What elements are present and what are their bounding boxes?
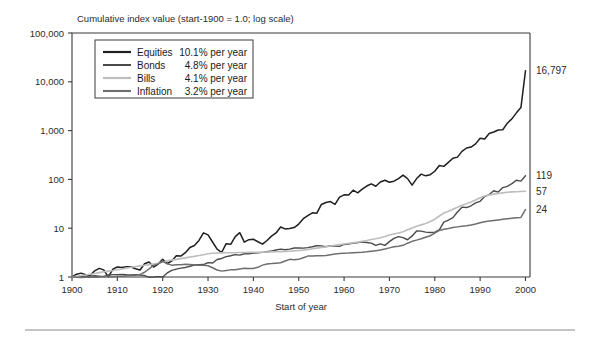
- y-tick-label: 10,000: [35, 76, 64, 87]
- y-tick-label: 10: [53, 223, 64, 234]
- series-line-inflation: [72, 210, 525, 278]
- y-tick-label: 1: [59, 272, 64, 283]
- chart-canvas: Cumulative index value (start-1900 = 1.0…: [0, 0, 599, 344]
- x-axis-title-group: Start of year: [275, 301, 327, 312]
- x-tick-label: 1930: [197, 284, 218, 295]
- x-tick-label: 1970: [379, 284, 400, 295]
- x-tick-label: 1960: [334, 284, 355, 295]
- legend-name-bills: Bills: [137, 73, 155, 84]
- end-label-bills: 57: [536, 186, 548, 197]
- x-tick-label: 1950: [288, 284, 309, 295]
- y-tick-label: 100,000: [30, 28, 64, 39]
- x-tick-label: 2000: [515, 284, 536, 295]
- chart-title-group: Cumulative index value (start-1900 = 1.0…: [77, 13, 294, 24]
- series-line-equities: [72, 71, 525, 277]
- legend-name-inflation: Inflation: [137, 86, 172, 97]
- end-value-labels: 16,7971195724: [536, 65, 567, 215]
- x-tick-label: 1910: [107, 284, 128, 295]
- x-axis: 1900191019201930194019501960197019801990…: [61, 277, 536, 295]
- legend-name-bonds: Bonds: [137, 60, 165, 71]
- x-tick-label: 1980: [424, 284, 445, 295]
- x-tick-label: 1990: [470, 284, 491, 295]
- chart-title: Cumulative index value (start-1900 = 1.0…: [77, 13, 294, 24]
- x-axis-title: Start of year: [275, 301, 327, 312]
- end-label-inflation: 24: [536, 204, 548, 215]
- x-tick-label: 1920: [152, 284, 173, 295]
- x-tick-label: 1940: [243, 284, 264, 295]
- chart-legend: Equities10.1% per yearBonds4.8% per year…: [95, 40, 253, 98]
- end-label-equities: 16,797: [536, 65, 567, 76]
- x-tick-label: 1900: [61, 284, 82, 295]
- y-tick-label: 100: [48, 174, 64, 185]
- legend-rate-inflation: 3.2% per year: [185, 86, 248, 97]
- series-line-bills: [72, 191, 525, 277]
- y-axis: 1101001,00010,000100,000: [30, 28, 72, 283]
- chart-figure: Cumulative index value (start-1900 = 1.0…: [0, 0, 599, 344]
- legend-name-equities: Equities: [137, 47, 173, 58]
- legend-rate-equities: 10.1% per year: [179, 47, 247, 58]
- series-lines: [72, 71, 525, 278]
- y-tick-label: 1,000: [40, 125, 64, 136]
- legend-rate-bills: 4.1% per year: [185, 73, 248, 84]
- legend-rate-bonds: 4.8% per year: [185, 60, 248, 71]
- end-label-bonds: 119: [536, 170, 552, 181]
